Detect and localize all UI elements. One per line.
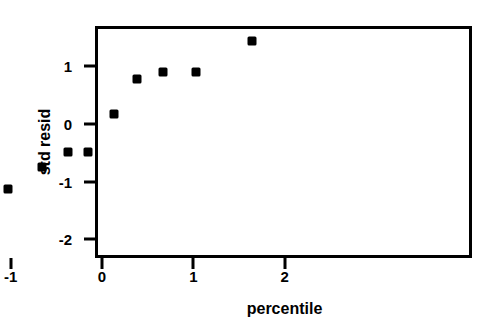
data-point — [3, 184, 12, 193]
y-tick-label: 0 — [48, 116, 72, 133]
x-tick-label: 2 — [270, 268, 300, 285]
y-tick-label: 1 — [48, 58, 72, 75]
x-tick-label: 1 — [178, 268, 208, 285]
data-point — [159, 68, 168, 77]
x-axis-label-text: percentile — [247, 300, 323, 318]
normal-probability-plot: percentile std resid 10-1-2-2-1012 — [0, 0, 499, 334]
x-axis-label: percentile — [0, 300, 499, 318]
y-tick-label: -2 — [48, 231, 72, 248]
data-point — [109, 109, 118, 118]
plot-area — [95, 26, 472, 258]
y-tick — [84, 65, 95, 68]
x-tick-label: -1 — [0, 268, 26, 285]
data-point — [247, 37, 256, 46]
y-tick — [84, 180, 95, 183]
data-point — [84, 147, 93, 156]
y-tick — [84, 238, 95, 241]
y-tick — [84, 123, 95, 126]
x-tick-label: 0 — [87, 268, 117, 285]
y-tick-label: -1 — [48, 173, 72, 190]
data-point — [192, 67, 201, 76]
data-point — [132, 75, 141, 84]
data-point — [64, 147, 73, 156]
